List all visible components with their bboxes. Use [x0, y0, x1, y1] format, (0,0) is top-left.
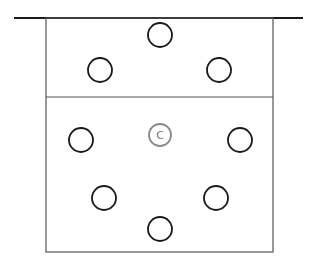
diagram-canvas: C	[0, 0, 314, 263]
circle-lower-left-icon	[92, 186, 116, 210]
center-label: C	[156, 129, 164, 142]
circle-mid-left-icon	[69, 128, 93, 152]
circle-upper-right-icon	[207, 58, 231, 82]
circle-top-icon	[148, 23, 172, 47]
center-marker: C	[149, 124, 171, 146]
circle-bottom-icon	[148, 217, 172, 241]
circle-lower-right-icon	[204, 186, 228, 210]
circle-mid-right-icon	[228, 128, 252, 152]
circle-upper-left-icon	[88, 58, 112, 82]
